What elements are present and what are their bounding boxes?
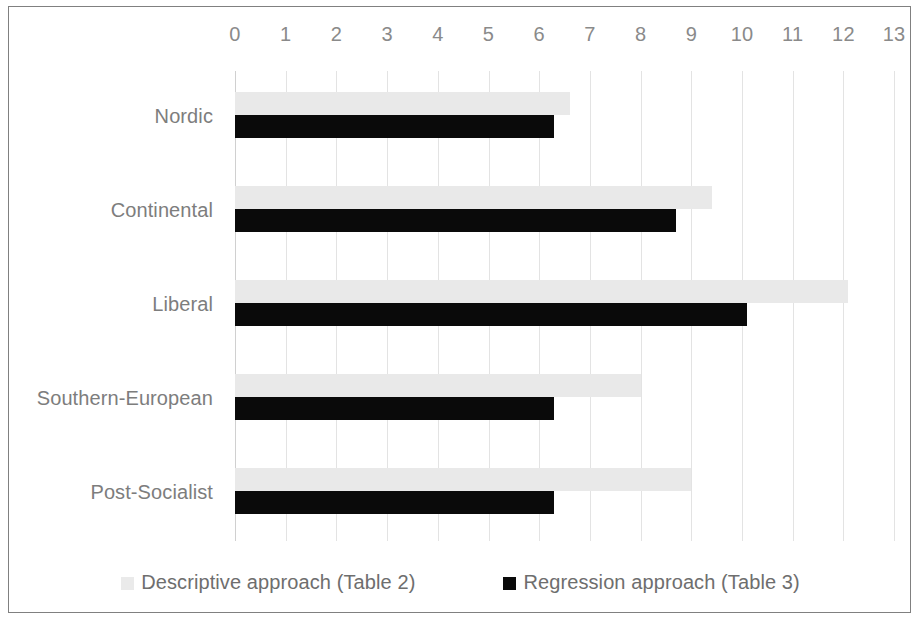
- legend-swatch-descriptive-icon: [121, 577, 134, 590]
- x-tick-label-13: 13: [874, 21, 914, 47]
- x-tick-label-12: 12: [823, 21, 863, 47]
- legend-label: Regression approach (Table 3): [523, 571, 799, 594]
- x-tick-label-2: 2: [316, 21, 356, 47]
- bar-nordic-descriptive: [235, 92, 570, 115]
- bar-southern-european-regression: [235, 397, 554, 420]
- category-label-nordic: Nordic: [3, 103, 213, 129]
- x-tick-label-10: 10: [722, 21, 762, 47]
- bar-southern-european-descriptive: [235, 374, 641, 397]
- x-tick-label-7: 7: [570, 21, 610, 47]
- category-label-southern-european: Southern-European: [3, 385, 213, 411]
- x-tick-label-3: 3: [367, 21, 407, 47]
- bar-group-liberal: [235, 265, 904, 359]
- x-tick-label-5: 5: [469, 21, 509, 47]
- legend-label: Descriptive approach (Table 2): [141, 571, 415, 594]
- bar-continental-regression: [235, 209, 676, 232]
- category-label-continental: Continental: [3, 197, 213, 223]
- bar-nordic-regression: [235, 115, 554, 138]
- category-label-post-socialist: Post-Socialist: [3, 479, 213, 505]
- bar-group-post-socialist: [235, 453, 904, 547]
- plot-area: [235, 71, 904, 541]
- x-tick-label-0: 0: [215, 21, 255, 47]
- bar-liberal-descriptive: [235, 280, 848, 303]
- legend-item-regression[interactable]: Regression approach (Table 3): [503, 571, 799, 594]
- x-tick-label-6: 6: [519, 21, 559, 47]
- x-axis-tick-labels: 012345678910111213: [9, 21, 912, 51]
- category-label-liberal: Liberal: [3, 291, 213, 317]
- bar-groups: [235, 71, 904, 541]
- x-tick-label-8: 8: [621, 21, 661, 47]
- bar-group-nordic: [235, 77, 904, 171]
- y-axis-category-labels: NordicContinentalLiberalSouthern-Europea…: [9, 71, 227, 541]
- bar-group-southern-european: [235, 359, 904, 453]
- chart-legend: Descriptive approach (Table 2)Regression…: [9, 571, 912, 594]
- bar-post-socialist-regression: [235, 491, 554, 514]
- legend-item-descriptive[interactable]: Descriptive approach (Table 2): [121, 571, 415, 594]
- x-tick-label-9: 9: [671, 21, 711, 47]
- x-tick-label-1: 1: [266, 21, 306, 47]
- bar-liberal-regression: [235, 303, 747, 326]
- legend-swatch-regression-icon: [503, 577, 516, 590]
- chart-container: 012345678910111213 NordicContinentalLibe…: [8, 6, 911, 613]
- bar-continental-descriptive: [235, 186, 712, 209]
- bar-group-continental: [235, 171, 904, 265]
- x-tick-label-4: 4: [418, 21, 458, 47]
- bar-post-socialist-descriptive: [235, 468, 691, 491]
- x-tick-label-11: 11: [773, 21, 813, 47]
